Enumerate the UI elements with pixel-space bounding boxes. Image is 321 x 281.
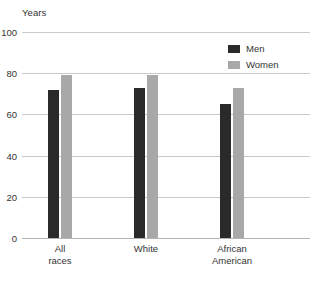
- y-axis-title: Years: [22, 7, 46, 18]
- legend-label-women: Women: [246, 59, 279, 70]
- x-axis-category-line: All: [48, 243, 71, 255]
- bar-group-1: [134, 32, 158, 238]
- x-axis-category-line: American: [212, 255, 252, 267]
- y-axis-tick-60: 60: [6, 109, 17, 120]
- legend-label-men: Men: [246, 43, 264, 54]
- y-axis-tick-80: 80: [6, 68, 17, 79]
- bar-women-1: [147, 75, 158, 238]
- legend-swatch-men-icon: [228, 45, 240, 53]
- x-axis-category-line: races: [48, 255, 71, 267]
- x-axis-category-2: AfricanAmerican: [212, 243, 252, 266]
- bar-group-0: [48, 32, 72, 238]
- y-axis-tick-20: 20: [6, 191, 17, 202]
- y-axis-tick-0: 0: [12, 233, 17, 244]
- x-axis-category-line: White: [134, 243, 158, 255]
- bar-women-2: [233, 88, 244, 238]
- y-axis-tick-40: 40: [6, 150, 17, 161]
- bar-men-1: [134, 88, 145, 238]
- bar-women-0: [61, 75, 72, 238]
- bar-men-2: [220, 104, 231, 238]
- x-axis-category-0: Allraces: [48, 243, 71, 266]
- legend-swatch-women-icon: [228, 61, 240, 69]
- bar-men-0: [48, 90, 59, 238]
- gridline-0: [22, 238, 310, 239]
- legend: Men Women: [228, 42, 279, 74]
- legend-item-women: Women: [228, 58, 279, 71]
- bar-chart-figure: Years 020406080100 Men Women AllracesWhi…: [0, 0, 321, 281]
- x-axis-category-1: White: [134, 243, 158, 255]
- x-axis-category-line: African: [212, 243, 252, 255]
- legend-item-men: Men: [228, 42, 279, 55]
- y-axis-tick-100: 100: [1, 27, 17, 38]
